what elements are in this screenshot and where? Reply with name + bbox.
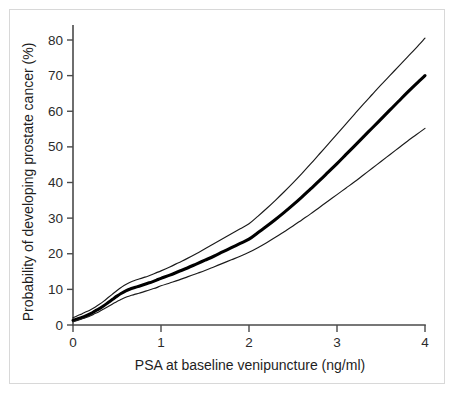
y-tick-label: 80 xyxy=(48,33,63,48)
y-tick-label: 20 xyxy=(48,246,63,261)
y-tick-label: 40 xyxy=(48,175,63,190)
x-tick-label: 0 xyxy=(69,335,77,350)
y-axis-ticks xyxy=(67,40,73,325)
curve-estimate xyxy=(73,76,425,321)
y-tick-label: 10 xyxy=(48,282,63,297)
y-tick-label: 50 xyxy=(48,139,63,154)
y-axis-title: Probability of developing prostate cance… xyxy=(20,43,36,322)
prostate-cancer-probability-chart: 01020304050607080 01234 PSA at baseline … xyxy=(0,0,456,395)
curve-group xyxy=(73,38,425,322)
x-tick-label: 1 xyxy=(157,335,165,350)
curve-confidence-limit xyxy=(73,38,425,318)
x-axis-tick-labels: 01234 xyxy=(69,335,429,350)
x-tick-label: 3 xyxy=(333,335,341,350)
y-axis-tick-labels: 01020304050607080 xyxy=(48,33,63,333)
y-tick-label: 30 xyxy=(48,211,63,226)
x-tick-label: 2 xyxy=(245,335,253,350)
y-tick-label: 70 xyxy=(48,68,63,83)
figure-container: 01020304050607080 01234 PSA at baseline … xyxy=(0,0,456,395)
y-tick-label: 0 xyxy=(55,318,63,333)
y-tick-label: 60 xyxy=(48,104,63,119)
curve-confidence-limit xyxy=(73,128,425,321)
x-axis-ticks xyxy=(73,325,425,332)
x-axis-title: PSA at baseline venipuncture (ng/ml) xyxy=(135,357,365,373)
x-tick-label: 4 xyxy=(421,335,429,350)
